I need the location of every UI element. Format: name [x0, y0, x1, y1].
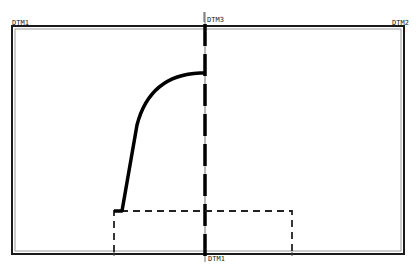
- sketch-canvas[interactable]: [0, 0, 419, 269]
- datum-label-center-bottom[interactable]: DTM1: [208, 256, 225, 263]
- datum-label-left[interactable]: DTM1: [12, 20, 29, 27]
- datum-label-right[interactable]: DTM2: [392, 20, 409, 27]
- datum-label-center-top[interactable]: DTM3: [207, 17, 224, 24]
- frame-inner: [15, 29, 401, 251]
- dashed-rectangle[interactable]: [114, 211, 292, 252]
- frame-outer: [12, 26, 404, 254]
- profile-curve[interactable]: [114, 73, 205, 211]
